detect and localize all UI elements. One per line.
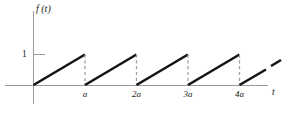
continuation-stub — [271, 60, 281, 66]
x-tick-label-2a: 2a — [132, 90, 141, 99]
sawtooth-waveform-figure: f (t) 1 a 2a 3a 4a t — [0, 0, 287, 113]
y-tick-label-one: 1 — [22, 50, 27, 60]
x-tick-label-4a: 4a — [235, 90, 244, 99]
ramp-segment-4 — [188, 55, 240, 86]
y-axis-label: f (t) — [36, 4, 51, 14]
x-tick-label-a: a — [83, 90, 88, 99]
ramp-segment-5-partial — [240, 70, 267, 86]
ramp-segment-3 — [137, 55, 189, 86]
ramp-segment-2 — [85, 55, 137, 86]
x-tick-label-3a: 3a — [184, 90, 193, 99]
x-axis-label: t — [272, 88, 275, 98]
ramp-segment-1 — [34, 55, 86, 86]
